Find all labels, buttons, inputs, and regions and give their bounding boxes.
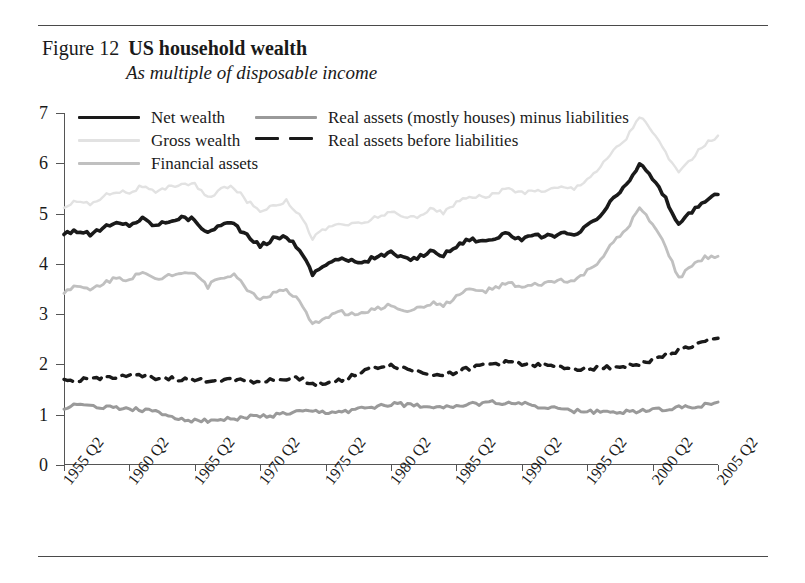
x-tick-label: 2005 Q2 <box>714 434 761 488</box>
y-tick-label: 4 <box>26 255 48 273</box>
y-tick-mark <box>56 415 64 416</box>
y-tick-mark <box>56 264 64 265</box>
y-tick-label: 1 <box>26 406 48 424</box>
figure-label: Figure 12 <box>42 37 119 59</box>
x-axis-labels: 1955 Q21960 Q21965 Q21970 Q21975 Q21980 … <box>64 470 764 540</box>
y-tick-label: 2 <box>26 355 48 373</box>
y-tick-label: 3 <box>26 305 48 323</box>
figure-container: Figure 12US household wealth As multiple… <box>0 0 805 583</box>
series-line <box>64 164 718 276</box>
figure-heading: Figure 12US household wealth <box>42 36 742 60</box>
figure-subtitle: As multiple of disposable income <box>126 61 742 84</box>
y-tick-label: 0 <box>26 456 48 474</box>
y-tick-label: 5 <box>26 205 48 223</box>
y-tick-mark <box>56 314 64 315</box>
plot-area <box>64 113 718 465</box>
bottom-rule <box>38 556 768 557</box>
y-tick-mark <box>56 163 64 164</box>
y-tick-mark <box>56 465 64 466</box>
y-tick-mark <box>56 364 64 365</box>
y-tick-label: 6 <box>26 154 48 172</box>
y-axis-labels: 76543210 <box>26 113 48 465</box>
series-line <box>64 208 718 324</box>
title-block: Figure 12US household wealth As multiple… <box>42 36 742 84</box>
series-line <box>64 338 718 385</box>
top-rule <box>38 25 768 26</box>
y-tick-mark <box>56 214 64 215</box>
series-svg <box>64 113 718 465</box>
series-line <box>64 401 718 423</box>
page-title: US household wealth <box>128 37 307 59</box>
y-tick-label: 7 <box>26 104 48 122</box>
y-tick-mark <box>56 113 64 114</box>
